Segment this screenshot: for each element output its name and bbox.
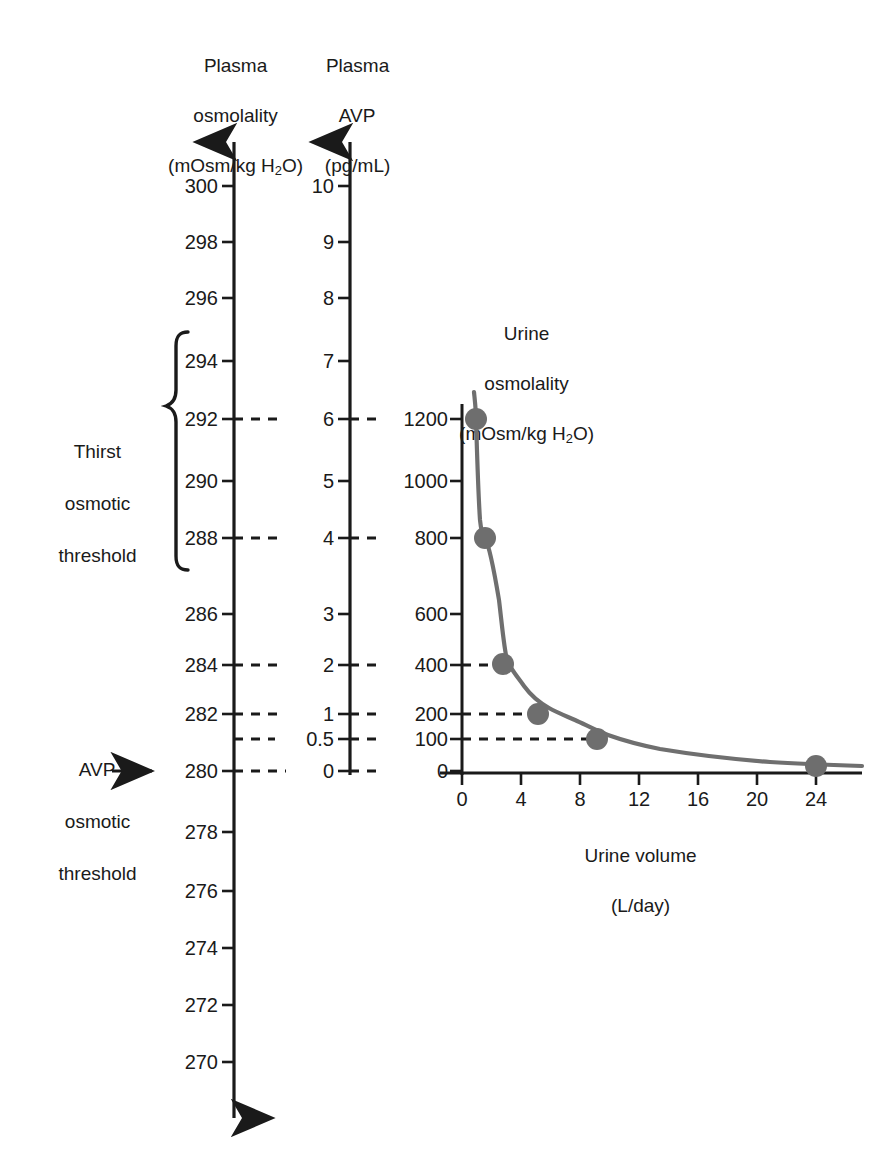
data-point-3: [492, 653, 514, 675]
urine-osmolality-axis-ticks: [450, 419, 462, 771]
plasma-osmolality-axis-ticks: [222, 186, 234, 1062]
curve-data-points: [465, 408, 827, 777]
data-point-2: [474, 527, 496, 549]
data-point-6: [805, 755, 827, 777]
thirst-threshold-brace: [166, 332, 188, 570]
plasma-avp-axis-ticks: [338, 186, 350, 771]
urine-volume-axis-ticks: [462, 773, 816, 785]
figure-vector-overlay: [0, 0, 872, 1165]
data-point-4: [527, 703, 549, 725]
data-point-5: [586, 728, 608, 750]
data-point-1: [465, 408, 487, 430]
physiology-figure: Plasma osmolality (mOsm/kg H2O) Plasma A…: [0, 0, 872, 1165]
